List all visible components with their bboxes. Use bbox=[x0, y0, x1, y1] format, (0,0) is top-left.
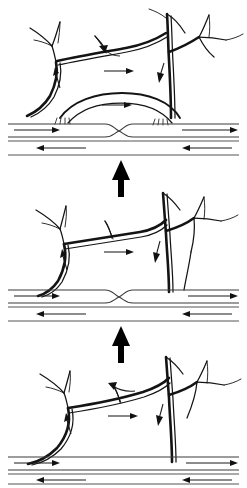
canvas-background bbox=[0, 0, 247, 488]
vascular-diagram-svg bbox=[0, 0, 247, 488]
figure-root bbox=[0, 0, 247, 488]
